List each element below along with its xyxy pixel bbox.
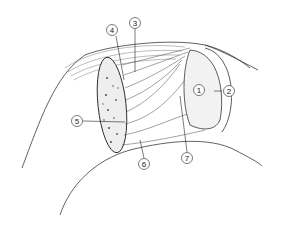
- callout-5: 5: [72, 116, 83, 127]
- callout-1: 1: [194, 85, 205, 96]
- svg-text:5: 5: [75, 117, 80, 126]
- callout-6: 6: [139, 159, 150, 170]
- bone-section: [93, 56, 131, 154]
- callout-3: 3: [130, 18, 141, 29]
- callout-4: 4: [107, 25, 118, 36]
- anatomical-illustration: 1 2 3 4 5 6 7: [0, 0, 282, 228]
- svg-text:1: 1: [197, 86, 202, 95]
- callout-7: 7: [182, 153, 193, 164]
- svg-text:7: 7: [185, 154, 190, 163]
- svg-text:2: 2: [227, 87, 232, 96]
- callout-2: 2: [224, 86, 235, 97]
- svg-text:3: 3: [133, 19, 138, 28]
- svg-text:4: 4: [110, 26, 115, 35]
- svg-text:6: 6: [142, 160, 147, 169]
